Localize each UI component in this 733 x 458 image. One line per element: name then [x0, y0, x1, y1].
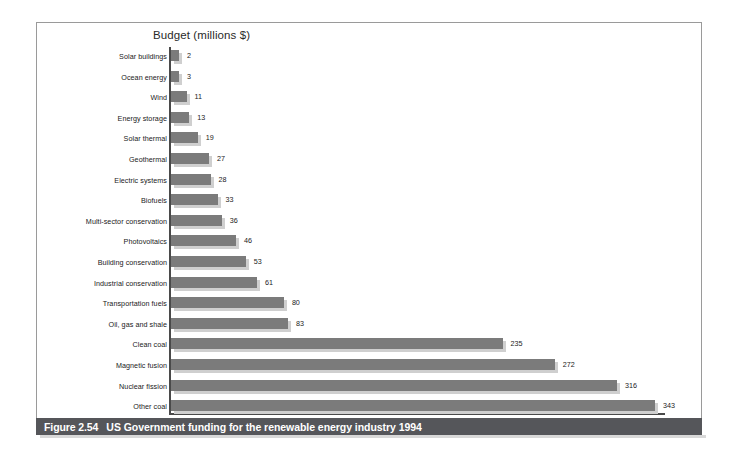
bar: 343: [171, 400, 659, 416]
bar: 46: [171, 235, 240, 251]
bar-row: Ocean energy3: [37, 71, 701, 87]
bar-value-label: 272: [563, 360, 575, 369]
bar-category-label: Energy storage: [45, 114, 167, 123]
bar-value-label: 80: [292, 298, 300, 307]
bar-fill: [171, 277, 257, 288]
bar-category-label: Solar buildings: [45, 52, 167, 61]
bar-value-label: 27: [217, 154, 225, 163]
bar: 83: [171, 318, 292, 334]
bar-row: Clean coal235: [37, 338, 701, 354]
bar-fill: [171, 380, 617, 391]
bar: 11: [171, 91, 191, 107]
bar-category-label: Multi-sector conservation: [45, 217, 167, 226]
bar-value-label: 61: [265, 278, 273, 287]
bar-fill: [171, 256, 246, 267]
bar-fill: [171, 297, 284, 308]
bar-value-label: 19: [206, 133, 214, 142]
bar-category-label: Building conservation: [45, 258, 167, 267]
bar-value-label: 2: [187, 51, 191, 60]
bar-row: Oil, gas and shale83: [37, 318, 701, 334]
bar-row: Other coal343: [37, 400, 701, 416]
bar: 27: [171, 153, 213, 169]
bar-fill: [171, 338, 503, 349]
bar-row: Electric systems28: [37, 174, 701, 190]
figure-frame: Budget (millions $) Solar buildings2Ocea…: [36, 22, 702, 432]
bar-value-label: 13: [197, 113, 205, 122]
chart-title: Budget (millions $): [153, 29, 250, 41]
bar: 3: [171, 71, 183, 87]
bar-fill: [171, 359, 555, 370]
bar-category-label: Wind: [45, 93, 167, 102]
bar-value-label: 36: [230, 216, 238, 225]
bar: 61: [171, 277, 261, 293]
bar-fill: [171, 235, 236, 246]
caption-bar-shadow: [40, 435, 706, 438]
bar-value-label: 28: [219, 175, 227, 184]
bar-row: Photovoltaics46: [37, 235, 701, 251]
bar-category-label: Magnetic fusion: [45, 361, 167, 370]
bar-fill: [171, 112, 189, 123]
bar-value-label: 3: [187, 72, 191, 81]
bar-category-label: Solar thermal: [45, 134, 167, 143]
bar-category-label: Nuclear fission: [45, 382, 167, 391]
bar-row: Wind11: [37, 91, 701, 107]
bar-value-label: 46: [244, 236, 252, 245]
bar-category-label: Other coal: [45, 402, 167, 411]
bar-row: Magnetic fusion272: [37, 359, 701, 375]
bar-row: Industrial conservation61: [37, 277, 701, 293]
bar-value-label: 53: [254, 257, 262, 266]
bar-value-label: 343: [663, 401, 675, 410]
bar-row: Transportation fuels80: [37, 297, 701, 313]
bar: 19: [171, 132, 202, 148]
bar-value-label: 33: [226, 195, 234, 204]
bar: 36: [171, 215, 226, 231]
bar-category-label: Clean coal: [45, 340, 167, 349]
bar: 13: [171, 112, 193, 128]
bar: 80: [171, 297, 288, 313]
bar-row: Solar buildings2: [37, 50, 701, 66]
bar: 316: [171, 380, 621, 396]
bar-value-label: 235: [511, 339, 523, 348]
bar-row: Geothermal27: [37, 153, 701, 169]
bar-fill: [171, 318, 288, 329]
bar-value-label: 11: [195, 92, 202, 101]
bar-category-label: Transportation fuels: [45, 299, 167, 308]
bar-fill: [171, 400, 655, 411]
figure-caption-bar: Figure 2.54 US Government funding for th…: [36, 418, 702, 435]
bar-fill: [171, 132, 198, 143]
bar-category-label: Industrial conservation: [45, 279, 167, 288]
bar-category-label: Biofuels: [45, 196, 167, 205]
bar-row: Solar thermal19: [37, 132, 701, 148]
bar-row: Multi-sector conservation36: [37, 215, 701, 231]
bar-fill: [171, 91, 187, 102]
bar-value-label: 316: [625, 381, 637, 390]
bar-fill: [171, 71, 179, 82]
bar: 272: [171, 359, 559, 375]
bar-value-label: 83: [296, 319, 304, 328]
bar: 2: [171, 50, 183, 66]
bar-fill: [171, 153, 209, 164]
bar-row: Biofuels33: [37, 194, 701, 210]
figure-number: Figure 2.54: [44, 421, 98, 433]
figure-caption-text: US Government funding for the renewable …: [106, 421, 422, 433]
bar-row: Building conservation53: [37, 256, 701, 272]
bar: 235: [171, 338, 507, 354]
bar-category-label: Photovoltaics: [45, 237, 167, 246]
bar-category-label: Oil, gas and shale: [45, 320, 167, 329]
bar-category-label: Ocean energy: [45, 73, 167, 82]
bar-row: Nuclear fission316: [37, 380, 701, 396]
bar-fill: [171, 50, 179, 61]
bar-fill: [171, 215, 222, 226]
bar: 28: [171, 174, 215, 190]
bar-chart: Budget (millions $) Solar buildings2Ocea…: [37, 23, 701, 431]
bar-category-label: Geothermal: [45, 155, 167, 164]
bar-fill: [171, 194, 218, 205]
bar-row: Energy storage13: [37, 112, 701, 128]
bar: 33: [171, 194, 222, 210]
bar-category-label: Electric systems: [45, 176, 167, 185]
bar-fill: [171, 174, 211, 185]
bar: 53: [171, 256, 250, 272]
